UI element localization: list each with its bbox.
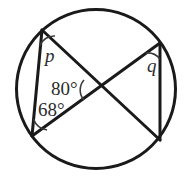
geometry-canvas: p q 80° 68° bbox=[0, 0, 190, 183]
label-angle-68: 68° bbox=[38, 99, 65, 120]
label-angle-80: 80° bbox=[51, 78, 78, 99]
label-angle-q: q bbox=[147, 55, 157, 76]
geometry-diagram: p q 80° 68° bbox=[0, 0, 190, 183]
label-angle-p: p bbox=[43, 45, 55, 66]
